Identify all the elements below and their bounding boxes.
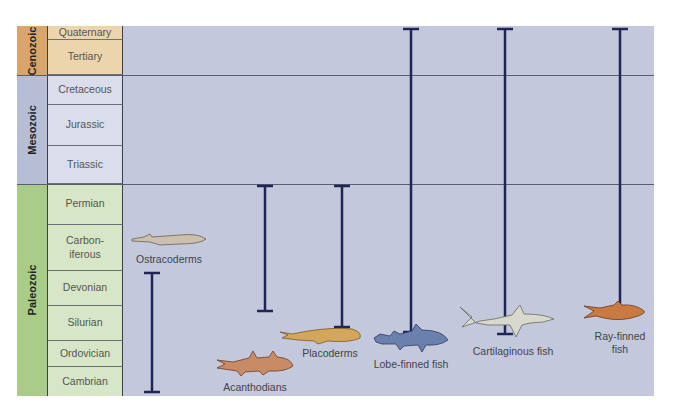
ray-finned-fish-icon bbox=[582, 300, 648, 324]
acanthodian-fish-icon bbox=[215, 348, 295, 378]
label-acanthodians: Acanthodians bbox=[215, 381, 295, 394]
label-ostracoderms: Ostracoderms bbox=[131, 253, 207, 266]
range-bar-acanthodians bbox=[257, 186, 273, 311]
range-bar-ostracoderms bbox=[144, 273, 160, 392]
cartilaginous-fish-icon bbox=[458, 303, 556, 339]
range-bar-cartilaginous-fish bbox=[497, 29, 513, 334]
range-bar-placoderms bbox=[334, 186, 350, 327]
ostracoderm-fish-icon bbox=[130, 230, 210, 250]
label-placoderms: Placoderms bbox=[290, 347, 370, 360]
lobe-finned-fish-icon bbox=[372, 322, 452, 354]
geologic-time-diagram: Cenozoic Mesozoic Paleozoic Quaternary T… bbox=[0, 0, 688, 410]
placoderm-fish-icon bbox=[278, 324, 364, 346]
label-lobe-finned-fish: Lobe-finned fish bbox=[361, 358, 461, 371]
range-bar-lobe-finned-fish bbox=[403, 29, 419, 332]
label-ray-finned-fish: Ray-finned fish bbox=[585, 330, 655, 355]
label-cartilaginous-fish: Cartilaginous fish bbox=[458, 345, 568, 358]
range-bar-ray-finned-fish bbox=[612, 29, 628, 308]
